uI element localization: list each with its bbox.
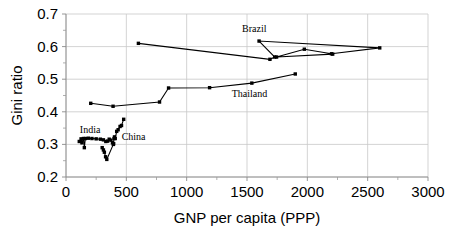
x-tick-label-3000: 3000 [411, 183, 444, 200]
datapoint-china-2 [103, 151, 106, 154]
y-tick-label-0.7: 0.7 [37, 5, 58, 22]
series-annotation-thailand: Thailand [232, 88, 268, 99]
datapoint-brazil-6 [303, 48, 306, 51]
y-tick-label-0.5: 0.5 [37, 70, 58, 87]
datapoint-brazil-3 [257, 39, 260, 42]
gini-gnp-scatter-chart: 0.20.30.40.50.60.70500100015002000250030… [0, 0, 457, 229]
x-tick-label-0: 0 [62, 183, 70, 200]
x-tick-label-500: 500 [114, 183, 139, 200]
x-axis-title: GNP per capita (PPP) [174, 209, 320, 226]
datapoint-thailand-6 [294, 72, 297, 75]
y-tick-label-0.3: 0.3 [37, 135, 58, 152]
datapoint-china-8 [114, 137, 117, 140]
y-tick-label-0.6: 0.6 [37, 38, 58, 55]
chart-canvas: 0.20.30.40.50.60.70500100015002000250030… [0, 0, 457, 229]
datapoint-thailand-5 [250, 81, 253, 84]
datapoint-china-5 [112, 143, 115, 146]
datapoint-india-6 [87, 137, 90, 140]
datapoint-india-5 [84, 137, 87, 140]
x-tick-label-1000: 1000 [170, 183, 203, 200]
x-tick-label-1500: 1500 [230, 183, 263, 200]
datapoint-china-12 [120, 124, 123, 127]
y-tick-label-0.2: 0.2 [37, 168, 58, 185]
datapoint-china-10 [116, 128, 119, 131]
series-annotation-brazil: Brazil [242, 23, 267, 34]
series-annotation-china: China [122, 131, 146, 142]
datapoint-thailand-2 [158, 100, 161, 103]
x-tick-label-2000: 2000 [291, 183, 324, 200]
x-tick-label-2500: 2500 [351, 183, 384, 200]
datapoint-thailand-0 [89, 102, 92, 105]
y-tick-label-0.4: 0.4 [37, 103, 58, 120]
datapoint-thailand-4 [208, 86, 211, 89]
datapoint-india-9 [99, 137, 102, 140]
datapoint-china-13 [122, 118, 125, 121]
y-axis-title: Gini ratio [8, 65, 25, 125]
series-annotation-india: India [80, 124, 101, 135]
datapoint-thailand-1 [111, 105, 114, 108]
series-line-brazil [138, 41, 379, 59]
datapoint-brazil-8 [331, 52, 334, 55]
datapoint-india-2 [80, 141, 83, 144]
datapoint-brazil-1 [268, 58, 271, 61]
datapoint-brazil-4 [378, 46, 381, 49]
datapoint-china-4 [105, 158, 108, 161]
datapoint-india-4 [83, 146, 86, 149]
datapoint-brazil-7 [275, 55, 278, 58]
datapoint-thailand-3 [167, 86, 170, 89]
datapoint-india-7 [90, 137, 93, 140]
datapoint-brazil-0 [137, 42, 140, 45]
datapoint-india-8 [94, 137, 97, 140]
